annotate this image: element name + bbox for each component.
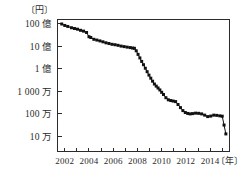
- y-axis-tick-label: 100 万: [25, 109, 53, 119]
- series-data-point: [140, 60, 143, 63]
- series-data-point: [200, 112, 203, 115]
- series-data-point: [117, 44, 120, 47]
- series-data-point: [98, 39, 101, 42]
- data-series-group: [60, 23, 227, 136]
- axes-group: [58, 20, 230, 152]
- series-data-point: [177, 103, 180, 106]
- series-data-point: [146, 70, 149, 73]
- series-data-point: [162, 93, 165, 96]
- plot-frame: [58, 20, 230, 152]
- series-data-point: [147, 74, 150, 77]
- series-data-point: [221, 115, 224, 118]
- log-line-chart: 100 億10 億1 億1 000 万100 万10 万 20022004200…: [0, 0, 251, 185]
- series-data-point: [101, 40, 104, 43]
- y-axis-tick-label: 10 万: [30, 132, 53, 142]
- series-data-point: [70, 26, 73, 29]
- axis-unit-labels-group: 〔円〕〔年〕: [26, 5, 244, 166]
- series-data-point: [212, 114, 215, 117]
- series-data-point: [194, 112, 197, 115]
- series-data-point: [120, 45, 123, 48]
- series-data-point: [107, 42, 110, 45]
- x-axis-tick-label: 2012: [176, 156, 195, 166]
- series-data-point: [89, 36, 92, 39]
- y-axis-tick-label: 100 億: [25, 18, 53, 29]
- y-axis-tick-label: 1 000 万: [17, 87, 52, 97]
- series-data-point: [224, 132, 227, 135]
- series-line: [62, 24, 226, 134]
- series-data-point: [79, 29, 82, 32]
- series-data-point: [82, 30, 85, 33]
- tick-marks-group: [58, 24, 223, 152]
- series-data-point: [66, 25, 69, 28]
- series-data-point: [144, 67, 147, 70]
- series-data-point: [191, 112, 194, 115]
- series-data-point: [73, 27, 76, 30]
- series-data-point: [151, 80, 154, 83]
- series-data-point: [206, 115, 209, 118]
- y-axis-tick-label: 1 億: [35, 63, 53, 74]
- series-data-point: [215, 114, 218, 117]
- y-axis-tick-label: 10 億: [30, 41, 53, 52]
- series-data-point: [135, 49, 138, 52]
- series-data-point: [95, 39, 98, 42]
- x-axis-unit-label: 〔年〕: [216, 155, 244, 166]
- series-data-point: [174, 100, 177, 103]
- series-data-point: [76, 28, 79, 31]
- series-data-point: [111, 43, 114, 46]
- series-data-point: [142, 63, 145, 66]
- series-data-point: [114, 43, 117, 46]
- x-axis-tick-label: 2004: [80, 156, 99, 166]
- series-data-point: [149, 77, 152, 80]
- series-data-point: [126, 46, 129, 49]
- series-data-point: [179, 106, 182, 109]
- x-axis-tick-label: 2006: [104, 156, 123, 166]
- series-data-point: [60, 23, 63, 26]
- x-axis-tick-label: 2002: [55, 156, 74, 166]
- x-axis-tick-label: 2008: [128, 156, 147, 166]
- y-axis-unit-label: 〔円〕: [26, 5, 54, 15]
- series-data-point: [123, 45, 126, 48]
- series-data-point: [63, 24, 66, 27]
- series-data-point: [85, 31, 88, 34]
- series-data-point: [209, 115, 212, 118]
- chart-container: 100 億10 億1 億1 000 万100 万10 万 20022004200…: [0, 0, 251, 185]
- series-data-point: [137, 53, 140, 56]
- series-data-point: [197, 112, 200, 115]
- x-axis-labels-group: 2002200420062008201020122014: [55, 156, 219, 166]
- x-axis-tick-label: 2010: [152, 156, 171, 166]
- series-data-point: [223, 124, 226, 127]
- series-data-point: [92, 38, 95, 41]
- series-data-point: [203, 114, 206, 117]
- series-data-point: [104, 41, 107, 44]
- series-data-point: [138, 56, 141, 59]
- y-axis-labels-group: 100 億10 億1 億1 000 万100 万10 万: [17, 18, 52, 142]
